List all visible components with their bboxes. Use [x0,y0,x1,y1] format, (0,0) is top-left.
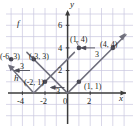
y-tick-label-4: 4 [58,44,62,53]
point-label-neg3-3: (-3, 3) [29,53,49,61]
y-tick-label-2: 2 [58,66,62,75]
curve-label-f: f [17,19,20,28]
x-tick-label-2: 2 [87,97,91,106]
point-label-neg6-3: (-6, 3) [0,53,20,61]
x-tick-label-zero: 0 [63,97,67,106]
point-label-neg2-1: (-2, 1) [24,79,44,87]
y-axis-label: y [70,0,74,9]
shift-label-left: 3 [20,63,24,71]
graph-figure: x y -4 -2 0 2 6 4 2 f h (-6, 3) (-3, 3) … [0,0,137,131]
x-tick-label-neg4: -4 [17,97,24,106]
point-label-4-4: (4, 4) [100,41,117,49]
x-axis-label: x [119,94,123,103]
x-tick-label-neg2: -2 [40,97,47,106]
curve-label-h: h [14,74,19,83]
y-tick-label-6: 6 [58,21,62,30]
shift-label-middle: 3 [56,88,60,96]
point-label-1-1: (1, 1) [84,83,101,91]
point-label-1-4: (1, 4) [70,36,87,44]
shift-label-right: 3 [95,51,99,59]
point-marker-1-1 [77,80,82,85]
